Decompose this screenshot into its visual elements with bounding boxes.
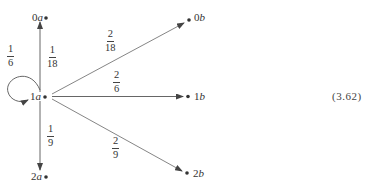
node-dot-1a [43, 95, 47, 99]
denominator: 18 [47, 58, 58, 70]
edge-label-1a-0a: 1 18 [47, 45, 58, 69]
edge-label-1a-1b: 2 6 [113, 70, 120, 94]
node-label-1a: 1a [30, 91, 41, 102]
node-label-0a: 0a [32, 12, 43, 23]
node-dot-2a [44, 175, 48, 179]
node-label-2b: 2b [193, 168, 204, 179]
numerator: 1 [7, 44, 14, 57]
edge-label-1a-2b: 2 9 [112, 136, 119, 160]
edge-label-1a-0b: 2 18 [105, 29, 116, 53]
node-letter: b [199, 167, 205, 179]
numerator: 1 [47, 124, 54, 137]
denominator: 18 [105, 42, 116, 54]
numerator: 2 [107, 29, 114, 42]
edge-label-1a-2a: 1 9 [47, 124, 54, 148]
denominator: 9 [113, 149, 118, 161]
node-dot-2b [185, 171, 189, 175]
node-letter: a [38, 11, 44, 23]
node-label-1b: 1b [194, 91, 205, 102]
node-letter: a [37, 170, 43, 182]
denominator: 9 [48, 137, 53, 149]
numerator: 2 [112, 136, 119, 149]
node-dot-0b [187, 18, 191, 22]
node-dot-1b [186, 95, 190, 99]
node-dot-0a [44, 16, 48, 20]
denominator: 6 [114, 83, 119, 95]
equation-number: (3.62) [332, 90, 362, 102]
node-letter: a [36, 90, 42, 102]
node-label-0b: 0b [194, 12, 205, 23]
node-letter: b [200, 90, 206, 102]
node-label-2a: 2a [31, 171, 42, 182]
numerator: 1 [49, 45, 56, 58]
numerator: 2 [113, 70, 120, 83]
node-letter: b [200, 11, 206, 23]
edge-label-self-loop-1a: 1 6 [7, 44, 14, 68]
transition-diagram [0, 0, 373, 187]
denominator: 6 [8, 57, 13, 69]
